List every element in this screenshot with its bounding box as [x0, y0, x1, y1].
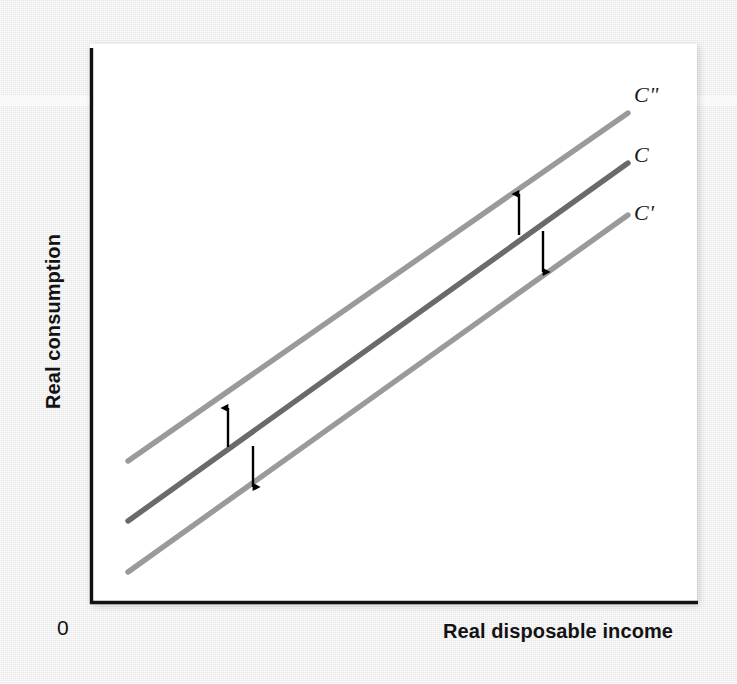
shift-arrows: [228, 194, 543, 487]
y-axis-label: Real consumption: [42, 222, 65, 422]
origin-label: 0: [57, 616, 69, 640]
curve-label-c-double-prime: C": [634, 82, 659, 108]
curve-label-c: C: [634, 142, 649, 168]
axes: [90, 48, 698, 604]
series-lines: [128, 113, 628, 572]
curve-label-c-prime: C': [634, 200, 654, 226]
line-c-double-prime: [128, 113, 628, 461]
consumption-function-figure: C" C C' 0 Real disposable income Real co…: [0, 0, 737, 684]
line-c-prime: [128, 215, 628, 572]
x-axis-label: Real disposable income: [443, 620, 673, 643]
line-c: [128, 163, 628, 521]
plot-svg: [0, 0, 737, 684]
